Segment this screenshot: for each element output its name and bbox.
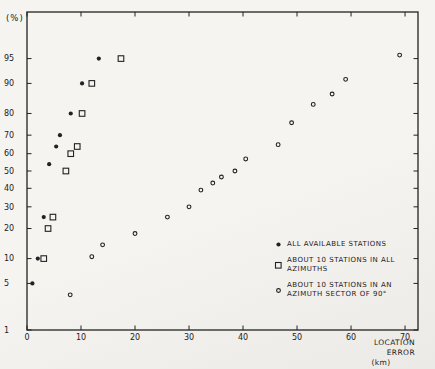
- y-tick-label: 90: [4, 79, 14, 88]
- open-square-icon: [274, 261, 287, 270]
- data-point-open-circle: [220, 175, 224, 179]
- data-point-filled-circle: [42, 215, 46, 219]
- data-point-open-circle: [199, 188, 203, 192]
- legend-entry-10-stations-all-azimuths: ABOUT 10 STATIONS IN ALL AZIMUTHS: [274, 256, 414, 275]
- x-axis-label-text: LOCATION ERROR: [347, 338, 415, 358]
- data-point-filled-circle: [97, 56, 101, 60]
- data-point-filled-circle: [69, 111, 73, 115]
- y-tick-label: 70: [4, 131, 14, 140]
- data-point-open-square: [50, 214, 56, 220]
- data-point-open-square: [118, 56, 124, 62]
- scatter-plot: 0102030405060701510203040506070809095: [0, 0, 435, 369]
- data-point-open-circle: [187, 205, 191, 209]
- data-point-open-square: [79, 111, 85, 117]
- data-point-open-square: [41, 256, 47, 262]
- x-tick-label: 40: [238, 333, 248, 342]
- x-tick-label: 0: [24, 333, 29, 342]
- data-point-filled-circle: [80, 81, 84, 85]
- data-point-open-circle: [330, 92, 334, 96]
- data-point-open-circle: [398, 53, 402, 57]
- x-tick-label: 30: [184, 333, 194, 342]
- data-point-filled-circle: [54, 144, 58, 148]
- legend-entry-10-stations-sector: ABOUT 10 STATIONS IN AN AZIMUTH SECTOR O…: [274, 281, 414, 300]
- open-circle-icon: [274, 286, 287, 295]
- data-point-open-square: [68, 151, 74, 157]
- data-point-open-circle: [244, 157, 248, 161]
- data-point-open-circle: [233, 169, 237, 173]
- y-tick-label: 10: [4, 254, 14, 263]
- data-point-filled-circle: [30, 281, 34, 285]
- data-point-filled-circle: [58, 133, 62, 137]
- data-point-open-circle: [311, 103, 315, 107]
- figure: (%) 010203040506070151020304050607080909…: [0, 0, 435, 369]
- data-point-open-square: [89, 81, 95, 87]
- data-point-open-square: [63, 168, 69, 174]
- data-point-open-circle: [290, 121, 294, 125]
- x-tick-label: 20: [130, 333, 140, 342]
- y-tick-label: 80: [4, 109, 14, 118]
- y-tick-label: 20: [4, 224, 14, 233]
- data-point-open-circle: [68, 293, 72, 297]
- x-tick-label: 50: [292, 333, 302, 342]
- data-point-filled-circle: [36, 256, 40, 260]
- data-point-open-square: [45, 226, 51, 232]
- data-point-open-square: [74, 144, 80, 150]
- y-tick-label: 95: [4, 54, 14, 63]
- legend-label: ABOUT 10 STATIONS IN ALL AZIMUTHS: [287, 256, 399, 275]
- y-tick-label: 50: [4, 167, 14, 176]
- y-tick-label: 1: [4, 326, 9, 335]
- data-point-open-circle: [211, 181, 215, 185]
- x-tick-label: 10: [76, 333, 86, 342]
- legend-label: ALL AVAILABLE STATIONS: [287, 240, 399, 250]
- legend: ALL AVAILABLE STATIONS ABOUT 10 STATIONS…: [274, 240, 414, 300]
- data-point-open-circle: [166, 215, 170, 219]
- data-point-open-circle: [133, 232, 137, 236]
- x-axis-unit-text: (km): [347, 358, 415, 368]
- y-tick-label: 40: [4, 184, 14, 193]
- legend-entry-all-stations: ALL AVAILABLE STATIONS: [274, 240, 414, 250]
- x-axis-label: LOCATION ERROR (km): [347, 338, 415, 368]
- data-point-filled-circle: [47, 162, 51, 166]
- data-point-open-circle: [344, 77, 348, 81]
- y-tick-label: 30: [4, 203, 14, 212]
- data-point-open-circle: [276, 143, 280, 147]
- data-point-open-circle: [90, 255, 94, 259]
- y-tick-label: 5: [4, 279, 9, 288]
- y-tick-label: 60: [4, 149, 14, 158]
- data-point-open-circle: [101, 243, 105, 247]
- filled-circle-icon: [274, 240, 287, 249]
- legend-label: ABOUT 10 STATIONS IN AN AZIMUTH SECTOR O…: [287, 281, 399, 300]
